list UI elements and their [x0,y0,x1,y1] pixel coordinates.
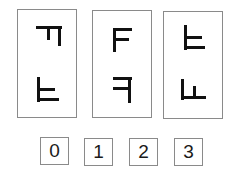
answer-option-3[interactable]: 3 [174,138,203,166]
answer-label: 1 [93,141,104,163]
f-rotated-cw-icon [36,26,63,47]
f-upright-icon [113,28,132,52]
f-mirrored-icon [113,77,132,103]
figure-card-3[interactable] [163,11,223,119]
answer-option-1[interactable]: 1 [84,138,113,166]
answer-label: 0 [49,140,60,162]
f-flipped-vertical-icon [37,77,60,102]
answer-label: 3 [183,141,194,163]
answer-label: 2 [138,141,149,163]
figure-card-2[interactable] [92,10,152,118]
answer-option-2[interactable]: 2 [129,138,158,166]
f-flipped-vertical-icon [184,25,205,50]
f-rotated-ccw-icon [181,79,206,100]
figure-card-1[interactable] [17,9,77,118]
answer-option-0[interactable]: 0 [40,137,69,165]
